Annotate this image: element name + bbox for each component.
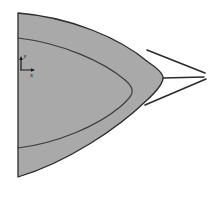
figure-canvas: y x xyxy=(0,0,213,197)
diagram-svg: y x xyxy=(0,0,213,197)
horizontal-axis-line xyxy=(163,77,204,78)
